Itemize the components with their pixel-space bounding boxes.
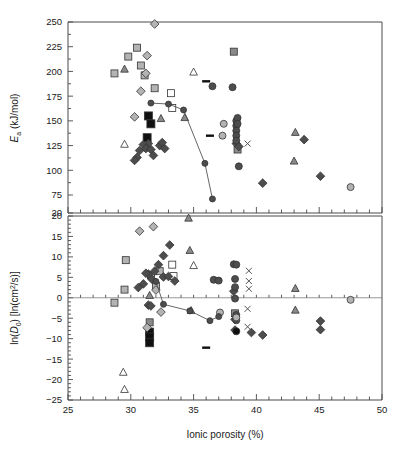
marker-square xyxy=(151,85,158,92)
svg-text:ln(D0) [ln(cm2/s)]: ln(D0) [ln(cm2/s)] xyxy=(9,271,22,345)
bottom-y-tick-label: 10 xyxy=(51,251,62,262)
bot-ylabel-p3: /s)] xyxy=(9,271,20,285)
marker-square xyxy=(230,48,237,55)
marker-circle xyxy=(216,314,222,320)
marker-circle xyxy=(202,160,208,166)
marker-circle xyxy=(232,275,239,282)
bot-ylabel-p1: ln( xyxy=(9,333,20,345)
top-y-tick-label: 175 xyxy=(46,91,62,102)
marker-square xyxy=(144,112,152,120)
marker-circle xyxy=(153,278,159,284)
top-panel: 2075100125150175200225250 xyxy=(46,16,382,218)
marker-dash xyxy=(202,346,210,348)
bottom-y-tick-label: −25 xyxy=(46,394,62,405)
marker-circle xyxy=(219,132,226,139)
x-tick-label: 45 xyxy=(314,404,325,415)
marker-circle xyxy=(209,196,215,202)
bottom-y-tick-label: −5 xyxy=(51,313,62,324)
bottom-y-tick-label: −20 xyxy=(46,374,62,385)
marker-circle xyxy=(232,295,239,302)
marker-circle xyxy=(233,328,240,335)
marker-circle xyxy=(220,120,227,127)
marker-circle xyxy=(233,261,240,268)
marker-square xyxy=(147,120,155,128)
bottom-panel: −25−20−15−10−505101520 253035404550 xyxy=(46,210,387,415)
marker-circle xyxy=(215,277,222,284)
bottom-x-tick-labels: 253035404550 xyxy=(63,404,388,415)
x-tick-label: 30 xyxy=(126,404,137,415)
marker-circle xyxy=(347,296,354,303)
marker-circle xyxy=(232,284,239,291)
series-black-dash xyxy=(202,346,210,348)
marker-square xyxy=(125,53,132,60)
bottom-y-tick-labels: −25−20−15−10−505101520 xyxy=(46,210,62,405)
bottom-y-tick-label: 5 xyxy=(57,272,62,283)
marker-dash xyxy=(202,80,210,82)
top-y-tick-label: 75 xyxy=(51,189,62,200)
top-y-tick-labels: 2075100125150175200225250 xyxy=(46,16,62,218)
svg-text:Ea (kJ/mol): Ea (kJ/mol) xyxy=(9,94,22,143)
marker-dash xyxy=(206,134,214,136)
top-y-tick-label: 200 xyxy=(46,66,62,77)
marker-circle xyxy=(165,101,171,107)
marker-circle xyxy=(229,84,236,91)
marker-square xyxy=(167,90,174,97)
bottom-y-tick-label: 20 xyxy=(51,210,62,221)
top-y-tick-label: 225 xyxy=(46,41,62,52)
marker-square xyxy=(146,339,154,347)
bottom-y-tick-label: 15 xyxy=(51,231,62,242)
marker-square xyxy=(121,286,128,293)
top-y-tick-label: 100 xyxy=(46,165,62,176)
marker-circle xyxy=(233,314,240,321)
series-black-circle xyxy=(233,328,240,335)
top-y-tick-label: 250 xyxy=(46,16,62,27)
marker-circle xyxy=(207,318,213,324)
bottom-y-tick-label: −10 xyxy=(46,333,62,344)
marker-circle xyxy=(347,184,354,191)
marker-square xyxy=(111,70,118,77)
bottom-y-axis-title: ln(D0) [ln(cm2/s)] xyxy=(9,271,22,345)
x-axis-title: Ionic porosity (%) xyxy=(186,429,263,440)
bottom-y-tick-label: 0 xyxy=(57,292,62,303)
marker-square xyxy=(134,44,141,51)
marker-circle xyxy=(187,308,193,314)
x-tick-label: 40 xyxy=(251,404,262,415)
marker-circle xyxy=(234,120,241,127)
bottom-y-tick-label: −15 xyxy=(46,354,62,365)
top-ylabel-unit: (kJ/mol) xyxy=(9,94,20,132)
top-y-axis-title: Ea (kJ/mol) xyxy=(9,94,22,143)
top-y-tick-label: 150 xyxy=(46,115,62,126)
marker-square xyxy=(137,62,144,69)
marker-circle xyxy=(235,163,242,170)
marker-square xyxy=(122,257,129,264)
marker-circle xyxy=(181,107,187,113)
bot-ylabel-p2: ) [ln(cm xyxy=(9,289,20,322)
top-y-tick-label: 125 xyxy=(46,140,62,151)
figure-container: 2075100125150175200225250 −25−20−15−10−5… xyxy=(0,0,405,459)
x-tick-label: 50 xyxy=(377,404,388,415)
marker-square xyxy=(111,299,118,306)
bot-ylabel-var: D xyxy=(9,326,20,333)
scatter-plot-svg: 2075100125150175200225250 −25−20−15−10−5… xyxy=(0,0,405,459)
bottom-plot-area xyxy=(68,216,382,400)
marker-circle xyxy=(148,100,154,106)
marker-circle xyxy=(160,301,166,307)
x-tick-label: 25 xyxy=(63,404,74,415)
marker-circle xyxy=(233,137,240,144)
marker-circle xyxy=(209,83,216,90)
marker-square xyxy=(169,261,176,268)
x-tick-label: 35 xyxy=(188,404,199,415)
top-plot-area xyxy=(68,22,382,213)
